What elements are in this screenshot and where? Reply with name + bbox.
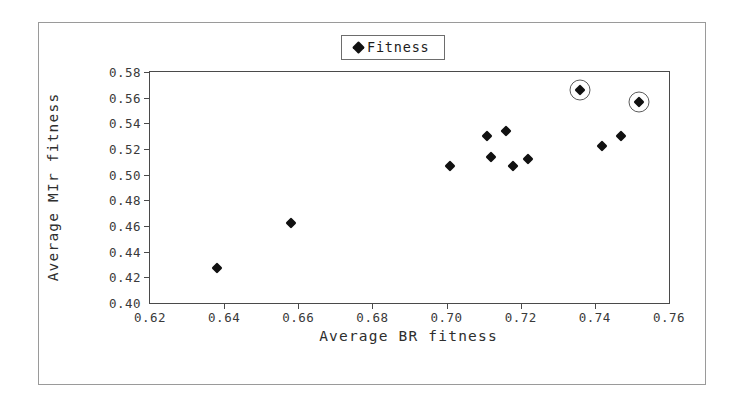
y-axis-tick-label: 0.52 xyxy=(109,142,141,157)
y-axis-tick-mark xyxy=(144,98,150,99)
y-axis-tick-mark xyxy=(144,123,150,124)
x-axis-tick-mark xyxy=(595,303,596,309)
y-axis-tick-label: 0.44 xyxy=(109,244,141,259)
y-axis-tick-label: 0.48 xyxy=(109,193,141,208)
legend-entry-label: Fitness xyxy=(367,39,430,55)
data-point-marker xyxy=(597,141,608,152)
y-axis-tick-mark xyxy=(144,277,150,278)
plot-area xyxy=(150,72,669,303)
x-axis-tick-mark xyxy=(447,303,448,309)
y-axis-title-text: Average MIr fitness xyxy=(45,92,61,281)
y-axis-tick-label: 0.58 xyxy=(109,65,141,80)
y-axis-tick-label: 0.56 xyxy=(109,90,141,105)
data-point-marker xyxy=(522,154,533,165)
data-point-marker xyxy=(211,263,222,274)
y-axis-tick-label: 0.46 xyxy=(109,219,141,234)
y-axis-tick-mark xyxy=(144,200,150,201)
x-axis-tick-label: 0.76 xyxy=(653,310,685,325)
x-axis-tick-label: 0.66 xyxy=(282,310,314,325)
diamond-marker-icon xyxy=(352,41,365,54)
y-axis-tick-label: 0.50 xyxy=(109,167,141,182)
y-axis-title: Average MIr fitness xyxy=(43,71,63,302)
data-point-marker xyxy=(285,218,296,229)
y-axis-tick-label: 0.40 xyxy=(109,296,141,311)
y-axis-tick-mark xyxy=(144,226,150,227)
y-axis-tick-label: 0.54 xyxy=(109,116,141,131)
x-axis-tick-mark xyxy=(298,303,299,309)
chart-legend: Fitness xyxy=(341,35,445,60)
x-axis-tick-mark xyxy=(372,303,373,309)
data-point-marker xyxy=(615,130,626,141)
data-point-marker xyxy=(485,151,496,162)
x-axis-tick-label: 0.72 xyxy=(505,310,537,325)
x-axis-tick-label: 0.68 xyxy=(356,310,388,325)
y-axis-tick-mark xyxy=(144,72,150,73)
x-axis-tick-label: 0.64 xyxy=(208,310,240,325)
x-axis-tick-label: 0.70 xyxy=(431,310,463,325)
chart-figure: Fitness Average MIr fitness 0.400.420.44… xyxy=(38,22,706,385)
x-axis-tick-mark xyxy=(521,303,522,309)
data-point-marker xyxy=(500,125,511,136)
data-point-marker xyxy=(482,130,493,141)
x-axis-tick-label: 0.62 xyxy=(134,310,166,325)
x-axis-title: Average BR fitness xyxy=(149,328,668,344)
y-axis-tick-mark xyxy=(144,252,150,253)
x-axis-tick-mark xyxy=(224,303,225,309)
plot-frame: 0.400.420.440.460.480.500.520.540.560.58… xyxy=(149,71,670,304)
y-axis-tick-mark xyxy=(144,149,150,150)
data-point-marker xyxy=(508,160,519,171)
y-axis-tick-mark xyxy=(144,175,150,176)
data-point-marker xyxy=(445,160,456,171)
y-axis-tick-label: 0.42 xyxy=(109,270,141,285)
x-axis-tick-label: 0.74 xyxy=(579,310,611,325)
